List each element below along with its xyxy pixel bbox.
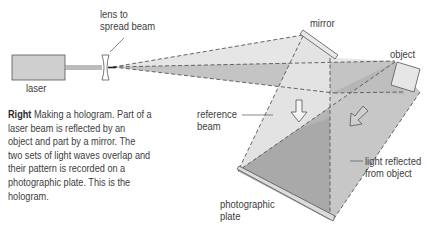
reflected-label-line2: from object xyxy=(365,167,412,179)
lens-label-line1: lens to xyxy=(100,8,128,20)
reflected-label-line1: light reflected xyxy=(365,155,421,167)
figure-caption: Right Making a hologram. Part of a laser… xyxy=(8,108,152,203)
laser-label: laser xyxy=(26,82,46,94)
lens-label-line2: spread beam xyxy=(100,20,155,32)
caption-lead: Right xyxy=(8,109,31,120)
mirror-label: mirror xyxy=(310,17,335,29)
object-label: object xyxy=(390,48,415,60)
plate-label-line1: photographic xyxy=(220,198,275,210)
reference-label-line2: beam xyxy=(197,120,221,132)
reference-label-line1: reference xyxy=(197,108,237,120)
laser-body xyxy=(12,55,65,80)
plate-label-line2: plate xyxy=(220,210,241,222)
caption-text: Making a hologram. Part of a laser beam … xyxy=(8,109,152,202)
lens-icon xyxy=(102,55,109,80)
